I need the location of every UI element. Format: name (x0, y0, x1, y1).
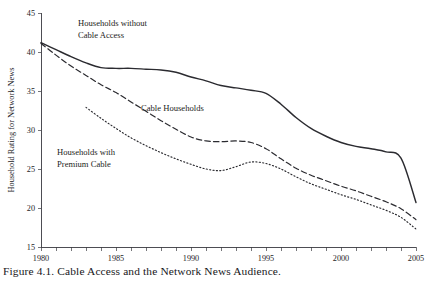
series-line-2 (41, 43, 416, 219)
y-axis-ticks (38, 13, 42, 247)
data-series-group (41, 43, 416, 229)
y-tick-label: 20 (27, 204, 35, 213)
y-axis: 15202530354045 (27, 9, 41, 252)
series-line-1 (41, 43, 416, 203)
annotation-premium-cable: Households with (57, 147, 116, 157)
annotation-no-cable: Households without (78, 18, 148, 28)
annotation-cable-households: Cable Households (141, 103, 204, 113)
y-tick-label: 30 (27, 126, 35, 135)
series-annotations: Households withoutCable AccessCable Hous… (57, 18, 204, 169)
series-line-3 (86, 107, 416, 229)
x-tick-label: 2000 (333, 254, 349, 262)
y-tick-label: 15 (27, 243, 35, 252)
x-tick-label: 2005 (408, 254, 424, 262)
x-tick-label: 1985 (108, 254, 124, 262)
y-tick-label: 40 (27, 48, 35, 57)
chart-plot-area: 15202530354045 198019851990199520002005 … (0, 0, 428, 262)
y-tick-label: 35 (27, 87, 35, 96)
figure-caption: Figure 4.1. Cable Access and the Network… (3, 264, 427, 278)
x-axis-ticks (41, 247, 416, 251)
x-tick-label: 1990 (183, 254, 199, 262)
y-axis-tick-labels: 15202530354045 (27, 9, 35, 252)
annotation-no-cable: Cable Access (78, 30, 125, 40)
line-chart: 15202530354045 198019851990199520002005 … (0, 0, 428, 262)
y-tick-label: 25 (27, 165, 35, 174)
x-tick-label: 1980 (33, 254, 49, 262)
y-axis-title: Household Rating for Network News (7, 67, 16, 192)
annotation-premium-cable: Premium Cable (57, 159, 111, 169)
x-axis-tick-labels: 198019851990199520002005 (33, 254, 424, 262)
figure-container: 15202530354045 198019851990199520002005 … (0, 0, 428, 290)
x-tick-label: 1995 (258, 254, 274, 262)
y-tick-label: 45 (27, 9, 35, 18)
x-axis: 198019851990199520002005 (33, 247, 424, 262)
